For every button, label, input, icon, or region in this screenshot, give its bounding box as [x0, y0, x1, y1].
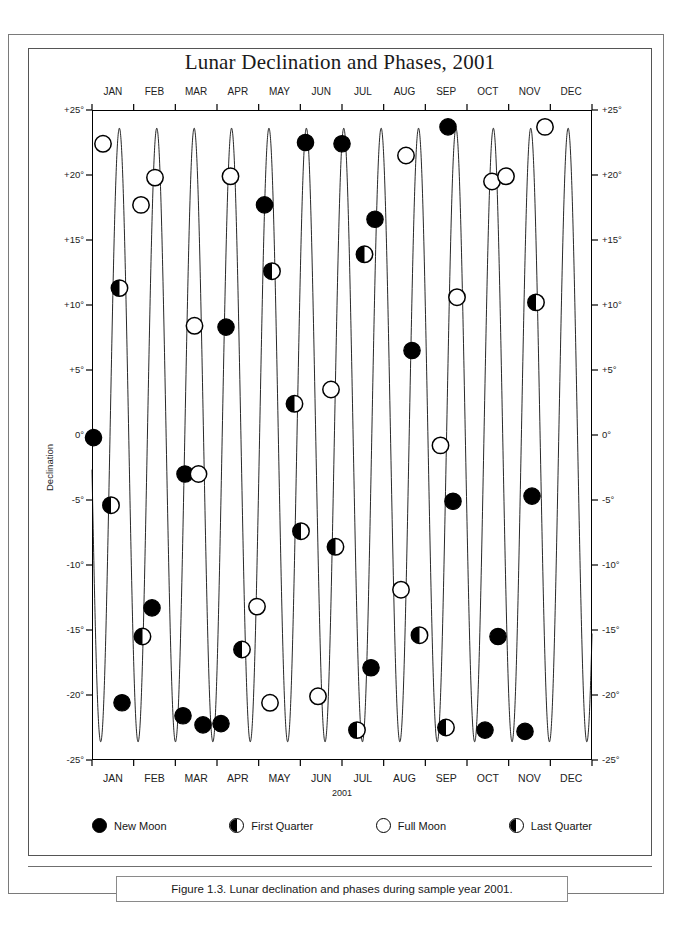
y-tick-label-right: +20° — [602, 169, 642, 180]
x-axis-title: 2001 — [312, 788, 372, 798]
x-tick-label-top-sep: SEP — [424, 86, 468, 97]
chart-plot-area: +25°+20°+15°+10°+5°0°-5°-10°-15°-20°-25°… — [0, 0, 682, 930]
y-tick-label-left: +15° — [44, 234, 84, 245]
new-moon-icon — [92, 818, 107, 833]
x-tick-label-bottom-may: MAY — [258, 772, 302, 784]
x-tick-label-bottom-sep: SEP — [424, 772, 468, 784]
x-tick-label-bottom-aug: AUG — [383, 772, 427, 784]
x-tick-label-bottom-apr: APR — [216, 772, 260, 784]
x-tick-label-bottom-dec: DEC — [549, 772, 593, 784]
y-tick-label-right: -10° — [602, 559, 642, 570]
legend-label: New Moon — [114, 820, 167, 832]
x-tick-label-top-jul: JUL — [341, 86, 385, 97]
y-tick-label-left: -15° — [44, 624, 84, 635]
x-tick-label-bottom-feb: FEB — [133, 772, 177, 784]
x-tick-label-top-oct: OCT — [466, 86, 510, 97]
y-tick-label-left: -20° — [44, 689, 84, 700]
x-tick-label-top-may: MAY — [258, 86, 302, 97]
legend-label: First Quarter — [251, 820, 313, 832]
caption-divider — [28, 866, 652, 867]
legend-item-new-moon: New Moon — [92, 818, 167, 833]
x-tick-label-top-jun: JUN — [299, 86, 343, 97]
y-tick-label-right: -15° — [602, 624, 642, 635]
x-tick-label-bottom-jan: JAN — [91, 772, 135, 784]
x-tick-label-top-nov: NOV — [508, 86, 552, 97]
x-tick-label-bottom-jul: JUL — [341, 772, 385, 784]
x-tick-label-bottom-jun: JUN — [299, 772, 343, 784]
y-tick-label-right: +15° — [602, 234, 642, 245]
y-tick-label-right: -25° — [602, 754, 642, 765]
chart-legend: New MoonFirst QuarterFull MoonLast Quart… — [92, 818, 592, 833]
x-tick-label-top-dec: DEC — [549, 86, 593, 97]
figure-caption-box: Figure 1.3. Lunar declination and phases… — [116, 876, 568, 902]
y-axis-title: Declination — [44, 444, 55, 491]
y-tick-label-right: +10° — [602, 299, 642, 310]
plot-frame — [92, 110, 592, 760]
full-moon-icon — [376, 818, 391, 833]
x-tick-label-top-apr: APR — [216, 86, 260, 97]
y-tick-label-right: 0° — [602, 429, 642, 440]
y-tick-label-right: -5° — [602, 494, 642, 505]
legend-item-first-quarter: First Quarter — [229, 818, 313, 833]
y-tick-label-right: +5° — [602, 364, 642, 375]
y-tick-label-left: +5° — [44, 364, 84, 375]
y-tick-label-left: +20° — [44, 169, 84, 180]
last-quarter-moon-icon — [509, 818, 524, 833]
x-tick-label-bottom-nov: NOV — [508, 772, 552, 784]
legend-label: Full Moon — [398, 820, 446, 832]
legend-label: Last Quarter — [531, 820, 592, 832]
y-tick-label-left: 0° — [44, 429, 84, 440]
y-tick-label-left: +10° — [44, 299, 84, 310]
x-tick-label-top-aug: AUG — [383, 86, 427, 97]
x-tick-label-top-mar: MAR — [174, 86, 218, 97]
y-tick-label-left: -25° — [44, 754, 84, 765]
x-tick-label-bottom-mar: MAR — [174, 772, 218, 784]
y-tick-label-left: +25° — [44, 104, 84, 115]
y-tick-label-left: -10° — [44, 559, 84, 570]
figure-caption-text: Figure 1.3. Lunar declination and phases… — [171, 883, 512, 895]
y-tick-label-right: -20° — [602, 689, 642, 700]
x-tick-label-top-jan: JAN — [91, 86, 135, 97]
y-tick-label-left: -5° — [44, 494, 84, 505]
legend-item-last-quarter: Last Quarter — [509, 818, 592, 833]
legend-item-full-moon: Full Moon — [376, 818, 446, 833]
x-tick-label-bottom-oct: OCT — [466, 772, 510, 784]
y-tick-label-right: +25° — [602, 104, 642, 115]
x-tick-label-top-feb: FEB — [133, 86, 177, 97]
first-quarter-moon-icon — [229, 818, 244, 833]
